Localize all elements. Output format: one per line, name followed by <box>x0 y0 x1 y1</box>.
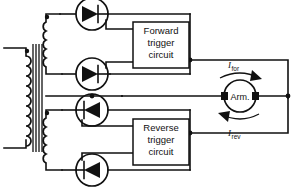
secondary-winding-lower <box>43 110 62 170</box>
reverse-trigger-line1: Reverse <box>143 122 178 133</box>
armature-brush-left <box>221 92 228 100</box>
forward-trigger-line2: trigger <box>148 37 175 48</box>
i-for-label: Ifor <box>227 60 240 72</box>
junction-right-bus <box>286 94 291 99</box>
i-for-subscript: for <box>232 65 240 72</box>
forward-trigger-line1: Forward <box>144 25 179 36</box>
scr1-gate-lead <box>106 20 133 29</box>
forward-trigger-line3: circuit <box>149 49 174 60</box>
i-for-arrowhead <box>250 70 262 81</box>
reverse-trigger-block[interactable]: Reverse trigger circuit <box>133 119 189 165</box>
scr2-gate-lead <box>106 62 133 68</box>
junction-common <box>90 94 95 99</box>
reverse-trigger-line2: trigger <box>148 134 175 145</box>
primary-lead-bottom <box>4 140 26 148</box>
primary-winding <box>26 56 31 146</box>
i-rev-arrowhead <box>218 111 230 122</box>
circuit-diagram-canvas: Arm. Ifor Irev Forward trigger circuit R… <box>0 0 301 192</box>
circuit-schematic-svg: Arm. Ifor Irev Forward trigger circuit R… <box>0 0 301 192</box>
secondary-winding-upper <box>43 14 62 74</box>
supply-transformer <box>4 14 62 170</box>
armature-brush-right <box>252 92 259 100</box>
secondary-upper-dot <box>45 15 49 19</box>
primary-lead-top <box>4 48 26 56</box>
forward-trigger-block[interactable]: Forward trigger circuit <box>133 22 189 68</box>
primary-polarity-dot <box>25 49 29 53</box>
reverse-trigger-line3: circuit <box>149 146 174 157</box>
armature-load[interactable]: Arm. <box>221 80 259 112</box>
transformer-core <box>33 44 42 152</box>
i-rev-subscript: rev <box>232 133 242 140</box>
i-rev-label: Irev <box>227 128 241 140</box>
secondary-lower-dot <box>45 111 49 115</box>
armature-label: Arm. <box>231 92 250 102</box>
